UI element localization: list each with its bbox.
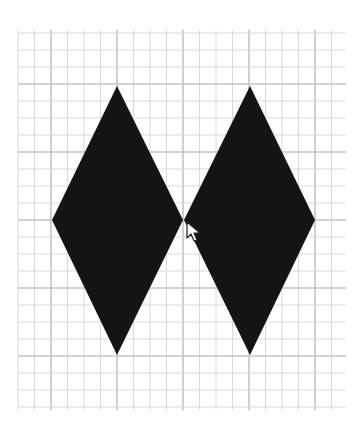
graph-paper-canvas[interactable] (0, 0, 364, 424)
left-diamond[interactable] (52, 86, 183, 355)
mouse-cursor-arrow-icon (186, 221, 204, 245)
